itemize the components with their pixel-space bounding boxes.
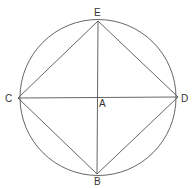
label-b: B (94, 176, 101, 187)
diagonal-cd (18, 97, 178, 98)
label-a: A (99, 98, 106, 109)
label-d: D (181, 93, 188, 104)
diagonal-eb (97, 21, 98, 174)
label-c: C (5, 93, 12, 104)
label-e: E (94, 7, 101, 18)
geometry-diagram: E C D A B (0, 0, 194, 188)
